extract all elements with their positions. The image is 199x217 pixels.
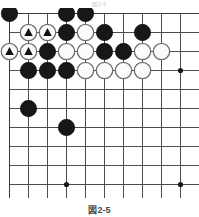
white-stone[interactable]: [20, 43, 36, 59]
stone-disc-black: [20, 62, 36, 78]
stone-disc-black: [115, 43, 131, 59]
stone-disc-white: [96, 62, 112, 78]
black-stone[interactable]: [20, 62, 36, 78]
go-board-figure: 図2-5 図2-5: [0, 0, 199, 217]
black-stone[interactable]: [134, 24, 150, 40]
stone-disc-black: [39, 43, 55, 59]
stone-disc-black: [39, 62, 55, 78]
stone-disc-white: [77, 43, 93, 59]
star-point: [178, 68, 183, 73]
white-stone[interactable]: [134, 62, 150, 78]
stone-disc-white: [77, 24, 93, 40]
star-point: [64, 182, 69, 187]
black-stone[interactable]: [96, 24, 112, 40]
black-stone[interactable]: [39, 62, 55, 78]
figure-bottom-caption: 図2-5: [0, 203, 199, 217]
black-stone[interactable]: [96, 43, 112, 59]
black-stone[interactable]: [20, 100, 36, 116]
stone-disc-white: [58, 43, 74, 59]
white-stone[interactable]: [96, 62, 112, 78]
stone-disc-black: [58, 119, 74, 135]
stone-disc-black: [134, 24, 150, 40]
stone-disc-black: [1, 8, 17, 22]
figure-top-caption: 図2-5: [0, 0, 199, 8]
go-board-canvas[interactable]: [0, 8, 199, 202]
stone-disc-black: [20, 100, 36, 116]
stone-disc-black: [58, 8, 74, 22]
stone-disc-black: [96, 43, 112, 59]
white-stone[interactable]: [77, 24, 93, 40]
stone-disc-white: [134, 43, 150, 59]
stone-disc-white: [153, 43, 169, 59]
black-stone[interactable]: [39, 43, 55, 59]
white-stone[interactable]: [58, 43, 74, 59]
black-stone[interactable]: [77, 8, 93, 22]
white-stone[interactable]: [115, 62, 131, 78]
stone-disc-black: [96, 24, 112, 40]
black-stone[interactable]: [1, 8, 17, 22]
stone-disc-white: [115, 62, 131, 78]
white-stone[interactable]: [77, 62, 93, 78]
stone-disc-black: [58, 24, 74, 40]
white-stone[interactable]: [20, 24, 36, 40]
stone-disc-white: [134, 62, 150, 78]
stone-disc-black: [77, 8, 93, 22]
stone-disc-white: [77, 62, 93, 78]
white-stone[interactable]: [77, 43, 93, 59]
star-point: [178, 182, 183, 187]
black-stone[interactable]: [58, 119, 74, 135]
white-stone[interactable]: [153, 43, 169, 59]
black-stone[interactable]: [58, 8, 74, 22]
black-stone[interactable]: [58, 62, 74, 78]
stone-disc-black: [58, 62, 74, 78]
white-stone[interactable]: [134, 43, 150, 59]
go-board[interactable]: [0, 8, 199, 202]
black-stone[interactable]: [115, 43, 131, 59]
black-stone[interactable]: [58, 24, 74, 40]
white-stone[interactable]: [39, 24, 55, 40]
white-stone[interactable]: [1, 43, 17, 59]
